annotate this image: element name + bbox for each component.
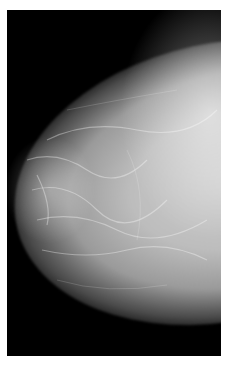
mammogram-image — [7, 10, 221, 356]
fibroglandular-strands — [7, 10, 221, 356]
